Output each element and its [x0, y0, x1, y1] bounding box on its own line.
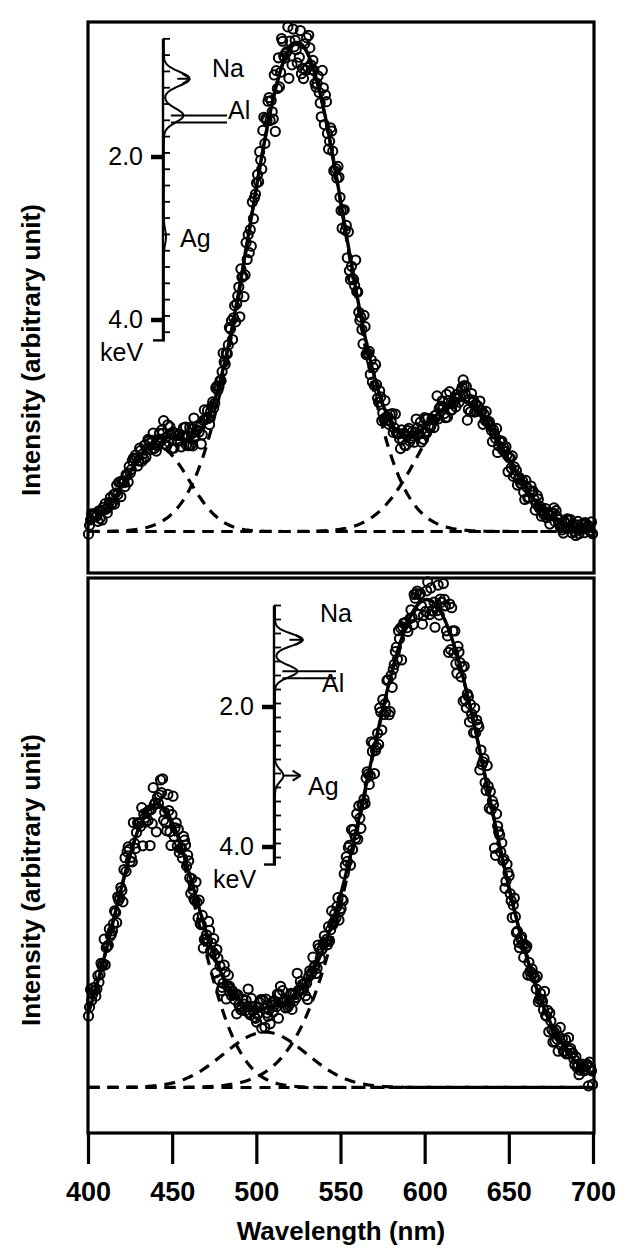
top-inset-peak-label-al: Al	[228, 96, 250, 124]
x-axis-tick-label: 700	[571, 1177, 616, 1207]
figure-root: Intensity (arbitrary unit) Intensity (ar…	[0, 0, 641, 1256]
bottom-inset-peak-label-na: Na	[320, 599, 352, 627]
data-point-marker	[152, 827, 161, 836]
y-axis-label-top: Intensity (arbitrary unit)	[16, 204, 46, 496]
x-axis-tick-label: 400	[66, 1177, 111, 1207]
x-axis-tick-label: 600	[403, 1177, 448, 1207]
bottom-inset-tick-2-0: 2.0	[219, 692, 254, 720]
top-inset-tick-2-0: 2.0	[108, 142, 143, 170]
gaussian-component-curve-2	[89, 1032, 594, 1087]
x-axis-tick-label: 550	[318, 1177, 363, 1207]
x-axis-ticks	[89, 1134, 594, 1165]
bottom-inset-unit-label: keV	[213, 865, 256, 893]
data-point-marker	[274, 1014, 283, 1023]
bottom-inset-peak-label-ag: Ag	[308, 772, 339, 800]
bottom-inset-edx: 2.0 4.0 keV Na Al Ag	[213, 599, 352, 893]
x-axis-tick-label: 500	[234, 1177, 279, 1207]
top-inset-peak-label-ag: Ag	[180, 224, 211, 252]
bottom-inset-tick-4-0: 4.0	[219, 832, 254, 860]
top-inset-peak-label-na: Na	[212, 54, 244, 82]
bottom-panel-plot	[84, 577, 597, 1090]
data-point-marker	[304, 31, 313, 40]
x-axis-tick-label: 650	[487, 1177, 532, 1207]
bottom-inset-peak-label-al: Al	[322, 669, 344, 697]
x-axis-tick-labels: 400450500550600650700	[66, 1177, 616, 1207]
top-panel-plot	[84, 22, 597, 540]
inset-spectrum-trace	[164, 39, 189, 341]
x-axis-tick-label: 450	[150, 1177, 195, 1207]
top-panel: 2.0 4.0 keV Na Al Ag	[84, 22, 597, 573]
data-point-marker	[430, 623, 439, 632]
x-axis: 400450500550600650700 Wavelength (nm)	[66, 1134, 616, 1247]
measured-data-points	[84, 577, 597, 1090]
data-point-marker	[284, 74, 293, 83]
bottom-panel: 2.0 4.0 keV Na Al Ag	[84, 577, 597, 1133]
top-inset-tick-4-0: 4.0	[108, 305, 143, 333]
data-point-marker	[271, 127, 280, 136]
data-point-marker	[239, 292, 248, 301]
data-point-marker	[244, 984, 253, 993]
y-axis-label-bottom: Intensity (arbitrary unit)	[16, 734, 46, 1026]
top-inset-unit-label: keV	[100, 338, 143, 366]
spectra-figure: Intensity (arbitrary unit) Intensity (ar…	[0, 0, 641, 1256]
measured-data-points	[84, 22, 597, 540]
x-axis-label: Wavelength (nm)	[237, 1216, 445, 1246]
